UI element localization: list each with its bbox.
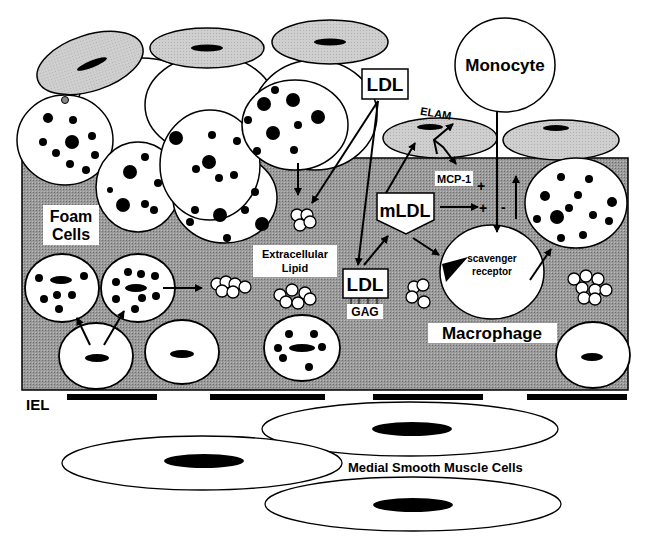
- minus-sign: -: [501, 199, 506, 215]
- ldl-label-top: LDL: [367, 74, 404, 95]
- ldl-label-bottom: LDL: [347, 274, 384, 295]
- macrophage-label: Macrophage: [442, 324, 542, 343]
- internal-elastic-lamina: [67, 394, 627, 400]
- plus-sign-1: +: [477, 178, 485, 194]
- iel-label: IEL: [26, 396, 49, 413]
- diagram-canvas: Monocyte LDL ELAM MCP-1 + + - mLDL Foam …: [0, 0, 650, 544]
- extracellular-label-line2: Lipid: [282, 262, 308, 274]
- mldl-label: mLDL: [380, 201, 431, 221]
- gag-label: GAG: [351, 305, 378, 319]
- foam-cells-label-line2: Cells: [52, 226, 90, 243]
- plus-sign-2: +: [479, 200, 487, 216]
- monocyte-label: Monocyte: [465, 56, 544, 75]
- mcp1-label: MCP-1: [437, 173, 471, 185]
- medial-smc-label: Medial Smooth Muscle Cells: [348, 460, 523, 475]
- extracellular-label-line1: Extracellular: [262, 248, 329, 260]
- foam-cells-label-line1: Foam: [50, 208, 93, 225]
- scavenger-label-line1: scavenger: [467, 253, 517, 264]
- scavenger-label-line2: receptor: [472, 266, 512, 277]
